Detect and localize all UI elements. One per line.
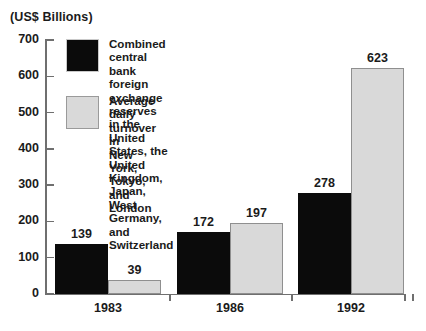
bar-1992-series1 (298, 193, 351, 294)
y-axis-tick-label: 600 (0, 68, 39, 82)
y-axis-tick (45, 112, 54, 114)
y-axis-tick (45, 148, 54, 150)
y-axis-tick (45, 221, 54, 223)
y-axis-tick (45, 257, 54, 259)
bar-value-label: 172 (177, 215, 230, 229)
y-axis-tick-label: 500 (0, 105, 39, 119)
bar-1992-series2 (351, 68, 404, 294)
y-axis-tick (45, 293, 54, 295)
bar-value-label: 278 (298, 176, 351, 190)
y-axis-tick (45, 76, 54, 78)
bar-value-label: 197 (230, 206, 283, 220)
bar-chart: (US$ Billions) 0100200300400500600700 13… (0, 0, 426, 331)
x-axis-category-label: 1992 (298, 301, 404, 315)
x-axis-category-label: 1983 (55, 301, 161, 315)
y-axis-tick-label: 300 (0, 177, 39, 191)
bar-value-label: 623 (351, 51, 404, 65)
bar-value-label: 139 (55, 227, 108, 241)
y-axis-tick (45, 184, 54, 186)
x-axis-category-label: 1986 (177, 301, 283, 315)
legend-swatch-light (66, 96, 99, 129)
y-axis-tick-label: 0 (0, 286, 39, 300)
y-axis-tick-label: 700 (0, 32, 39, 46)
y-axis-tick (45, 39, 54, 41)
bar-1986-series1 (177, 232, 230, 294)
legend-label-turnover: Average daily turnover in New York, Toky… (109, 94, 156, 215)
x-axis-tick (412, 294, 414, 301)
x-axis-end-tick (404, 294, 406, 301)
axis-unit-title: (US$ Billions) (10, 10, 93, 24)
legend-swatch-dark (66, 39, 99, 72)
bar-1983-series2 (108, 280, 161, 294)
bar-1986-series2 (230, 223, 283, 294)
bar-1983-series1 (55, 244, 108, 294)
bar-value-label: 39 (108, 263, 161, 277)
y-axis-tick-label: 200 (0, 213, 39, 227)
x-axis-tick (291, 294, 293, 301)
x-axis-tick (169, 294, 171, 301)
y-axis-tick-label: 100 (0, 250, 39, 264)
y-axis-tick-label: 400 (0, 141, 39, 155)
